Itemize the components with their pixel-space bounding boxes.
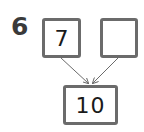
- arrow-left-icon: [61, 58, 88, 83]
- arrow-right-icon: [93, 58, 118, 83]
- bond-arrows: [0, 0, 144, 132]
